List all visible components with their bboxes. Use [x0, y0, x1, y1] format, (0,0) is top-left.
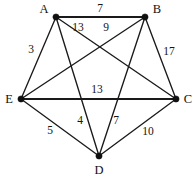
vertex-label-a: A — [39, 2, 48, 16]
edge-weight-b-d: 7 — [113, 114, 119, 126]
vertex-node-c — [173, 96, 179, 102]
edge-d-e — [21, 99, 99, 156]
edge-weight-a-d: 4 — [77, 114, 83, 126]
vertex-label-c: C — [184, 92, 192, 106]
vertex-label-d: D — [94, 163, 103, 177]
vertex-node-a — [53, 14, 59, 20]
edge-b-d — [99, 17, 145, 156]
edge-b-c — [145, 17, 176, 99]
edge-weight-d-e: 5 — [47, 124, 53, 136]
vertex-node-e — [18, 96, 24, 102]
edge-weight-c-d: 10 — [142, 125, 154, 137]
vertex-label-e: E — [5, 92, 13, 106]
vertex-node-d — [96, 153, 102, 159]
edge-weight-b-e: 9 — [103, 21, 109, 33]
edge-weight-a-b: 7 — [97, 2, 103, 14]
vertex-label-b: B — [153, 2, 161, 16]
vertex-node-b — [142, 14, 148, 20]
edge-weight-a-e: 3 — [28, 43, 34, 55]
weighted-graph-diagram: 71331791013547 ABCDE — [0, 0, 196, 180]
edge-weight-c-e: 13 — [91, 83, 103, 95]
graph-canvas: 71331791013547 ABCDE — [0, 0, 196, 180]
edge-weight-b-c: 17 — [163, 45, 175, 57]
edge-weight-a-c: 13 — [72, 21, 84, 33]
edge-c-d — [99, 99, 176, 156]
